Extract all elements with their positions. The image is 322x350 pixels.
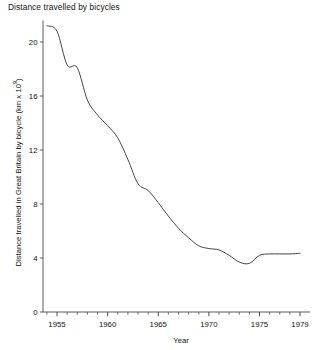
svg-text:1975: 1975 bbox=[251, 320, 269, 329]
svg-text:16: 16 bbox=[29, 92, 38, 101]
svg-text:12: 12 bbox=[29, 146, 38, 155]
svg-text:1979: 1979 bbox=[291, 320, 308, 329]
svg-text:1955: 1955 bbox=[48, 320, 66, 329]
svg-text:20: 20 bbox=[29, 38, 38, 47]
svg-text:0: 0 bbox=[33, 308, 38, 317]
svg-text:8: 8 bbox=[33, 200, 37, 209]
svg-text:1965: 1965 bbox=[150, 320, 168, 329]
data-series-line bbox=[47, 26, 300, 264]
chart-figure: Distance travelled by bicycles Distance … bbox=[0, 0, 322, 350]
axis-ticks bbox=[40, 42, 300, 316]
axis-tick-labels: 048121620195519601965197019751979 bbox=[29, 38, 309, 329]
axes bbox=[43, 20, 310, 312]
svg-text:1970: 1970 bbox=[200, 320, 218, 329]
svg-text:4: 4 bbox=[33, 254, 38, 263]
svg-text:1960: 1960 bbox=[99, 320, 117, 329]
plot-area: 048121620195519601965197019751979 bbox=[0, 0, 322, 350]
